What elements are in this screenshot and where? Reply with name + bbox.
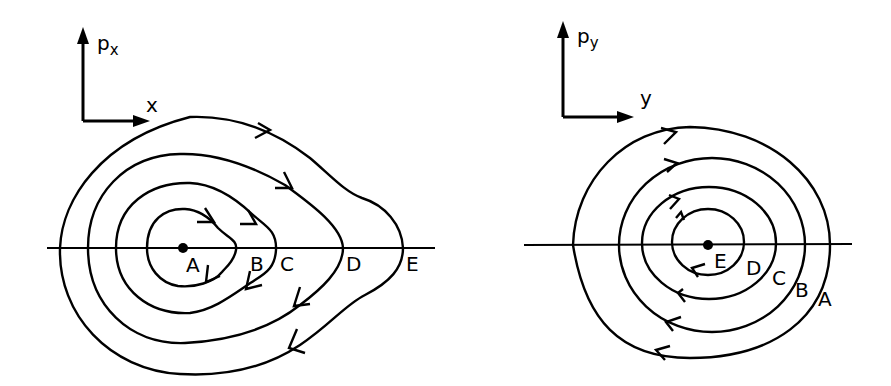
left-panel: px x A [47,27,435,374]
right-axes-indicator: py y [557,21,652,123]
arrow-chevron-icon [656,346,670,360]
x-axis-label: x [146,93,158,117]
label-a: A [186,253,200,277]
left-center-point [178,243,188,253]
orbit-a [573,127,830,358]
up-arrow-icon [77,27,89,44]
px-axis-label: px [97,31,119,59]
label-c: C [772,266,786,290]
right-center-point [703,240,713,250]
arrow-chevron-icon [206,265,220,282]
label-b: B [795,278,809,302]
label-d: D [346,252,361,276]
y-axis-label: y [640,86,652,110]
py-axis-label: py [577,24,599,52]
left-axes-indicator: px x [77,27,158,127]
label-c: C [280,252,294,276]
right-arrow-icon [617,111,634,123]
label-b: B [250,252,264,276]
up-arrow-icon [557,21,569,38]
label-e: E [406,252,419,276]
arrow-chevron-icon [289,329,305,353]
label-a: A [818,287,832,311]
left-orbits [60,117,403,375]
label-e: E [714,249,727,273]
right-panel: py y E D C B A [524,21,852,360]
label-d: D [746,256,761,280]
phase-space-diagram: px x A [0,0,891,386]
arrow-chevron-icon [676,212,684,220]
right-orbits [573,127,830,358]
